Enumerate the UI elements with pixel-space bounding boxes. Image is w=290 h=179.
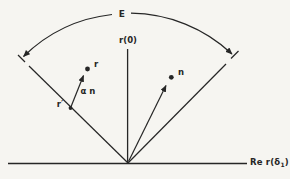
r-prime-label: r′ xyxy=(57,100,63,109)
n-vector-label: n xyxy=(178,67,184,76)
real-axis-label: Re r(δ1) xyxy=(250,158,289,168)
r-point-label: r xyxy=(94,59,98,68)
real-axis-label-post: ) xyxy=(285,157,289,167)
n-tip-dot xyxy=(169,75,174,80)
arc-label-E: E xyxy=(119,10,126,19)
arc-right-segment xyxy=(131,13,232,54)
n-vector-arrow xyxy=(129,86,167,162)
left-boundary-ray xyxy=(29,66,128,163)
right-boundary-ray xyxy=(128,64,226,163)
vertical-ray-label: r(0) xyxy=(119,35,137,44)
diagram-canvas xyxy=(0,0,290,179)
right-ray-tip-dash xyxy=(231,51,239,59)
vector-cone-diagram: E r(0) r α n r′ n Re r(δ1) xyxy=(0,0,290,179)
r-tip-dot xyxy=(85,67,90,72)
alpha-n-label: α n xyxy=(81,86,96,95)
arc-left-segment xyxy=(24,15,113,57)
real-axis-label-pre: Re r(δ xyxy=(250,157,280,167)
